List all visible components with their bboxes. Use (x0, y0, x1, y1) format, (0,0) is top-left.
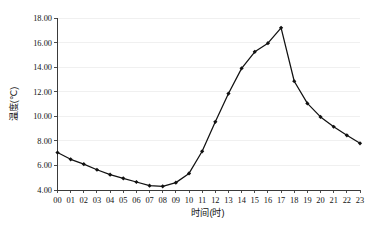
y-tick-label: 10.00 (33, 112, 52, 121)
x-tick-label: 00 (53, 196, 61, 205)
x-tick-label: 10 (185, 196, 193, 205)
y-tick-label: 8.00 (37, 137, 52, 146)
x-tick-label: 11 (198, 196, 206, 205)
y-tick-label: 6.00 (37, 161, 52, 170)
y-tick-label: 14.00 (33, 63, 52, 72)
y-axis-title: 温度(℃) (8, 87, 19, 121)
x-tick-label: 18 (290, 196, 298, 205)
x-tick-label: 13 (224, 196, 232, 205)
x-tick-label: 07 (145, 196, 153, 205)
x-tick-label: 14 (237, 196, 246, 205)
x-tick-label: 01 (66, 196, 74, 205)
x-tick-label: 19 (303, 196, 311, 205)
x-tick-label: 02 (80, 196, 88, 205)
x-tick-label: 12 (211, 196, 219, 205)
x-tick-label: 21 (330, 196, 338, 205)
x-tick-label: 15 (251, 196, 259, 205)
x-tick-label: 04 (106, 196, 115, 205)
x-tick-label: 17 (277, 196, 285, 205)
y-tick-label: 4.00 (37, 186, 52, 195)
x-tick-label: 22 (343, 196, 351, 205)
x-tick-label: 08 (159, 196, 167, 205)
x-tick-label: 05 (119, 196, 127, 205)
x-tick-label: 09 (172, 196, 180, 205)
y-tick-label: 18.00 (33, 14, 52, 23)
x-axis-title: 时间(时) (191, 207, 224, 218)
chart-canvas: 4.006.008.0010.0012.0014.0016.0018.00 00… (0, 0, 383, 226)
y-tick-label: 16.00 (33, 39, 52, 48)
x-tick-label: 03 (93, 196, 101, 205)
x-tick-label: 20 (316, 196, 324, 205)
x-tick-label: 23 (356, 196, 364, 205)
y-tick-label: 12.00 (33, 88, 52, 97)
temperature-line-chart: 4.006.008.0010.0012.0014.0016.0018.00 00… (0, 0, 383, 226)
x-tick-label: 16 (264, 196, 272, 205)
x-tick-label: 06 (132, 196, 140, 205)
